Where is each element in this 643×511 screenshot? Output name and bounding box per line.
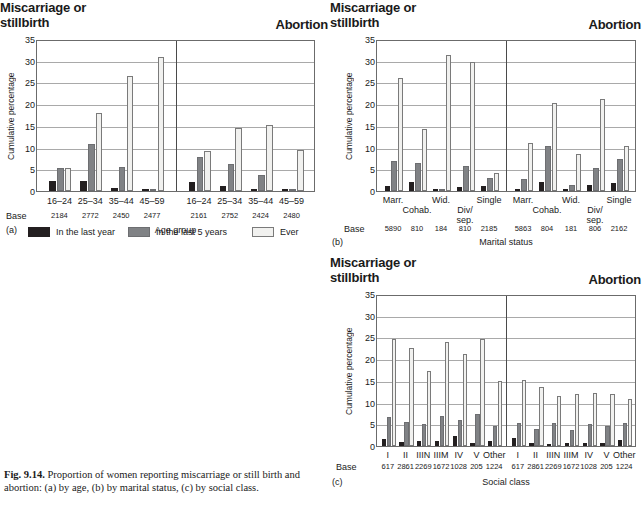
plot-area bbox=[376, 295, 636, 447]
bar-a-1-3-0 bbox=[282, 189, 289, 191]
bar-c-0-3-1 bbox=[440, 416, 444, 446]
base-row-label: Base bbox=[6, 211, 27, 221]
bar-c-1-6-2 bbox=[628, 399, 632, 446]
x-axis-title: Marital status bbox=[376, 237, 636, 247]
y-tick-label: 15 bbox=[15, 122, 35, 131]
bar-c-0-4-1 bbox=[458, 420, 462, 446]
bar-c-0-3-0 bbox=[435, 441, 439, 446]
panel-identifier: (b) bbox=[332, 237, 343, 247]
bar-c-1-4-0 bbox=[583, 443, 587, 446]
bar-c-0-1-0 bbox=[399, 442, 403, 446]
y-tick-label: 25 bbox=[355, 334, 375, 343]
y-tick-label: 5 bbox=[355, 166, 375, 175]
bar-c-1-2-0 bbox=[547, 444, 551, 446]
bar-c-0-3-2 bbox=[445, 342, 449, 446]
x-tick-label: Div/sep. bbox=[435, 205, 495, 225]
bar-b-1-0-2 bbox=[528, 143, 534, 191]
bar-c-0-2-2 bbox=[427, 371, 431, 446]
bar-a-1-0-2 bbox=[204, 151, 211, 191]
bar-c-0-6-2 bbox=[498, 381, 502, 446]
bar-c-0-2-0 bbox=[417, 441, 421, 446]
bar-b-1-1-0 bbox=[539, 182, 545, 191]
bar-b-0-2-0 bbox=[433, 189, 439, 191]
bar-b-0-1-0 bbox=[409, 182, 415, 191]
bar-c-1-0-2 bbox=[522, 380, 526, 446]
bar-c-0-5-0 bbox=[470, 443, 474, 446]
panel-c-heading-left: Miscarriage or stillbirth bbox=[330, 255, 510, 285]
bar-a-1-2-0 bbox=[251, 189, 258, 191]
bar-c-1-1-0 bbox=[529, 443, 533, 446]
bar-c-0-5-2 bbox=[480, 339, 484, 446]
bar-b-1-3-0 bbox=[587, 185, 593, 191]
panel-b-heading-left: Miscarriage or stillbirth bbox=[330, 0, 510, 30]
legend: In the last yearIn the last 5 yearsEver bbox=[0, 226, 330, 246]
panel-a-heading-left: Miscarriage or stillbirth bbox=[0, 0, 180, 30]
y-tick-label: 25 bbox=[355, 79, 375, 88]
bar-b-0-2-1 bbox=[439, 189, 445, 191]
y-axis-label: Cumulative percentage bbox=[344, 295, 354, 447]
bar-c-0-4-0 bbox=[453, 436, 457, 446]
y-tick-label: 5 bbox=[15, 166, 35, 175]
group-divider bbox=[506, 296, 507, 446]
bar-b-0-0-0 bbox=[385, 186, 391, 191]
bar-c-1-0-1 bbox=[517, 423, 521, 446]
bar-c-0-1-2 bbox=[409, 348, 413, 446]
bar-b-0-0-1 bbox=[391, 161, 397, 191]
bar-b-0-3-1 bbox=[463, 166, 469, 191]
bar-c-0-4-2 bbox=[463, 354, 467, 446]
bar-b-1-2-2 bbox=[576, 154, 582, 191]
bar-c-1-5-1 bbox=[605, 426, 609, 446]
bar-b-1-0-0 bbox=[515, 189, 521, 191]
bar-c-1-1-2 bbox=[539, 387, 543, 446]
bar-b-1-3-1 bbox=[593, 168, 599, 191]
bar-b-0-4-0 bbox=[481, 186, 487, 191]
bar-b-0-1-1 bbox=[415, 163, 421, 191]
legend-swatch-icon bbox=[128, 227, 150, 237]
bar-a-0-1-1 bbox=[88, 144, 95, 191]
legend-label: Ever bbox=[280, 227, 299, 238]
bar-a-0-1-2 bbox=[96, 113, 103, 191]
figure-caption-text: Proportion of women reporting miscarriag… bbox=[4, 469, 300, 493]
bar-b-0-4-2 bbox=[494, 173, 500, 191]
legend-swatch-icon bbox=[28, 227, 50, 237]
bar-a-0-1-0 bbox=[80, 181, 87, 191]
bar-b-0-3-2 bbox=[470, 62, 476, 191]
bar-c-0-0-0 bbox=[382, 439, 386, 446]
bar-b-1-2-1 bbox=[569, 185, 575, 191]
bar-a-0-0-1 bbox=[57, 168, 64, 191]
bar-c-1-3-2 bbox=[575, 394, 579, 446]
y-tick-label: 5 bbox=[355, 421, 375, 430]
y-tick-label: 30 bbox=[355, 57, 375, 66]
x-axis-title: Social class bbox=[376, 477, 636, 487]
bar-c-0-6-1 bbox=[493, 426, 497, 446]
bar-b-0-3-0 bbox=[457, 187, 463, 191]
panel-a-by-age: Miscarriage or stillbirth Abortion Cumul… bbox=[0, 0, 330, 250]
bar-a-0-0-2 bbox=[65, 168, 72, 191]
y-tick-label: 10 bbox=[15, 144, 35, 153]
bar-b-1-0-1 bbox=[521, 179, 527, 191]
bar-a-1-1-0 bbox=[220, 186, 227, 191]
bar-a-1-2-1 bbox=[258, 175, 265, 191]
bar-c-1-5-2 bbox=[610, 394, 614, 446]
y-tick-label: 20 bbox=[355, 101, 375, 110]
x-tick-label: Single bbox=[589, 195, 643, 205]
bar-c-0-6-0 bbox=[488, 441, 492, 446]
figure-caption: Fig. 9.14. Proportion of women reporting… bbox=[4, 468, 326, 494]
bar-a-1-1-2 bbox=[235, 128, 242, 191]
legend-label: In the last year bbox=[56, 227, 115, 238]
figure-caption-label: Fig. 9.14. bbox=[4, 469, 45, 480]
y-tick-label: 30 bbox=[355, 312, 375, 321]
y-tick-label: 15 bbox=[355, 377, 375, 386]
y-tick-label: 10 bbox=[355, 399, 375, 408]
bar-a-1-3-1 bbox=[289, 189, 296, 191]
y-tick-label: 25 bbox=[15, 79, 35, 88]
plot-area bbox=[376, 40, 636, 192]
bar-b-1-4-0 bbox=[611, 183, 617, 191]
base-value: 2162 bbox=[589, 224, 643, 233]
y-tick-label: 30 bbox=[15, 57, 35, 66]
bar-a-0-0-0 bbox=[49, 181, 56, 191]
bar-a-1-0-1 bbox=[197, 157, 204, 191]
bar-c-1-2-1 bbox=[552, 423, 556, 446]
panel-c-headings: Miscarriage or stillbirth Abortion bbox=[330, 255, 643, 289]
y-tick-label: 20 bbox=[355, 356, 375, 365]
